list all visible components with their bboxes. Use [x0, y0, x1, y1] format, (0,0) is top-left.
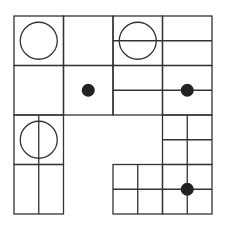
- grid-block: [14, 16, 64, 66]
- filled-dot-icon: [181, 183, 194, 196]
- grid-block: [64, 16, 114, 66]
- hollow-circle-icon: [20, 22, 57, 59]
- grid-block: [14, 66, 64, 116]
- grid-blocks: [14, 16, 212, 214]
- filled-dot-icon: [181, 84, 194, 97]
- filled-dot-icon: [82, 84, 95, 97]
- puzzle-diagram: [0, 0, 227, 236]
